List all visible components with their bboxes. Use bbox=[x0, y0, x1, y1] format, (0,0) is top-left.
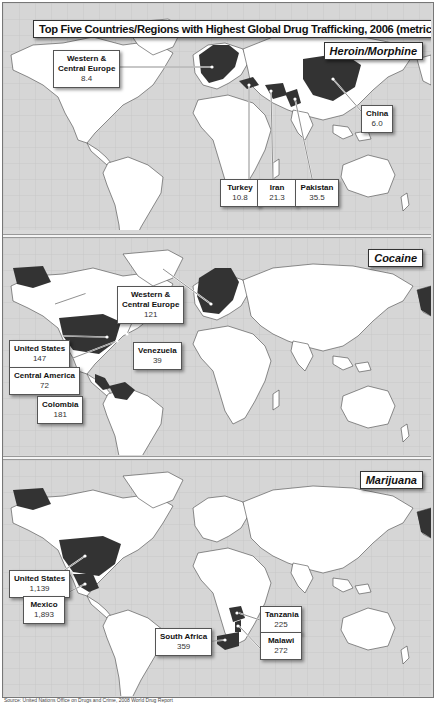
callout-united-states-cocaine: United States 147 bbox=[9, 340, 70, 368]
callout-malawi-marijuana: Malawi 272 bbox=[260, 632, 302, 660]
callout-united-states-marijuana: United States 1,139 bbox=[9, 570, 70, 598]
callout-south-africa-marijuana: South Africa 359 bbox=[155, 628, 212, 656]
callout-mexico-marijuana: Mexico 1,893 bbox=[23, 596, 65, 624]
callout-china-heroin: China 6.0 bbox=[361, 105, 393, 133]
callout-venezuela-cocaine: Venezuela 39 bbox=[133, 342, 182, 370]
drug-label-heroin: Heroin/Morphine bbox=[324, 42, 423, 60]
cocaine-panel: Cocaine Western & Central Europe 121 Uni… bbox=[3, 238, 431, 455]
source-note: Source: United Nations Office on Drugs a… bbox=[4, 697, 173, 703]
callout-iran-heroin: Iran 21.3 bbox=[257, 179, 297, 207]
drug-label-marijuana: Marijuana bbox=[360, 471, 423, 489]
marijuana-panel: Marijuana United States 1,139 Mexico 1,8… bbox=[3, 460, 431, 696]
callout-colombia-cocaine: Colombia 181 bbox=[37, 396, 83, 424]
callout-western-central-europe-cocaine: Western & Central Europe 121 bbox=[117, 286, 184, 324]
drug-label-cocaine: Cocaine bbox=[368, 249, 423, 267]
callout-turkey-heroin: Turkey 10.8 bbox=[220, 179, 260, 207]
callout-central-america-cocaine: Central America 72 bbox=[9, 367, 80, 395]
heroin-panel: Top Five Countries/Regions with Highest … bbox=[3, 3, 431, 230]
callout-pakistan-heroin: Pakistan 35.5 bbox=[295, 179, 339, 207]
callout-western-central-europe-heroin: Western & Central Europe 8.4 bbox=[53, 50, 120, 88]
callout-tanzania-marijuana: Tanzania 225 bbox=[260, 606, 302, 634]
chart-title: Top Five Countries/Regions with Highest … bbox=[33, 20, 431, 38]
